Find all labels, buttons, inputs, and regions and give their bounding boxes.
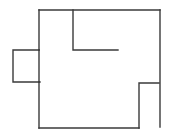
background (0, 0, 173, 138)
floor-plan-diagram (0, 0, 173, 138)
